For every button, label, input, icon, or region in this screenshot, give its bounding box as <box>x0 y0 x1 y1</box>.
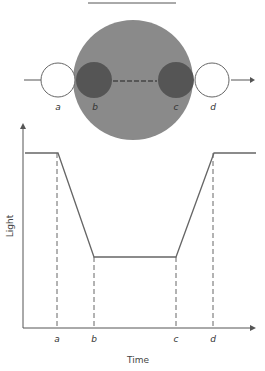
position-label-a: a <box>55 102 61 112</box>
position-label-d: d <box>210 102 216 112</box>
x-axis-arrow-icon <box>250 325 256 331</box>
y-axis-title: Light <box>5 214 15 237</box>
small-star-a <box>41 63 75 97</box>
small-star-d <box>195 63 229 97</box>
orbit-arrow-icon <box>250 77 255 83</box>
tick-label-d: d <box>210 334 216 344</box>
x-axis-title: Time <box>126 355 149 365</box>
y-axis-arrow-icon <box>20 123 26 129</box>
tick-label-c: c <box>174 334 179 344</box>
small-star-c <box>158 62 194 98</box>
small-star-b <box>76 62 112 98</box>
tick-label-a: a <box>54 334 60 344</box>
position-label-c: c <box>174 102 179 112</box>
eclipse-diagram: a b c d a b c d Time Light <box>0 0 265 371</box>
tick-label-b: b <box>91 334 97 344</box>
position-label-b: b <box>92 102 98 112</box>
light-curve <box>25 153 256 257</box>
